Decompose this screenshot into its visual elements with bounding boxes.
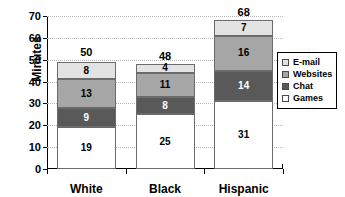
x-axis-tick xyxy=(126,169,127,174)
bar-segment-value: 25 xyxy=(159,137,170,147)
y-axis-tick-label: 10 xyxy=(29,141,41,153)
bar-segment[interactable]: 7 xyxy=(214,20,273,35)
y-axis-tick-label: 20 xyxy=(29,119,41,131)
bar-segment-value: 4 xyxy=(162,63,168,73)
bar-segment-value: 16 xyxy=(238,48,249,58)
bar-segment-value: 31 xyxy=(238,130,249,140)
bar-total-label: 48 xyxy=(159,50,171,62)
x-axis-category-label: Hispanic xyxy=(219,182,269,196)
bar-total-label: 68 xyxy=(238,6,250,18)
bar-segment-value: 14 xyxy=(238,81,249,91)
y-axis-tick xyxy=(43,60,47,61)
y-axis-tick xyxy=(43,103,47,104)
x-axis-tick xyxy=(47,169,48,174)
y-axis-tick-label: 70 xyxy=(29,10,41,22)
bar-segment[interactable]: 31 xyxy=(214,101,273,169)
legend-swatch-icon xyxy=(282,59,289,66)
bar-segment[interactable]: 4 xyxy=(136,64,195,73)
x-axis-tick xyxy=(204,169,205,174)
y-axis-tick-label: 60 xyxy=(29,32,41,44)
bar-segment[interactable]: 16 xyxy=(214,36,273,71)
legend-swatch-icon xyxy=(282,83,289,90)
stacked-bar-chart: Minutes 010203040506070White19913850Blac… xyxy=(0,0,345,197)
x-axis-tick xyxy=(283,169,284,174)
bar-segment[interactable]: 13 xyxy=(57,79,116,107)
y-axis-tick xyxy=(43,82,47,83)
y-axis-tick-label: 30 xyxy=(29,97,41,109)
legend-swatch-icon xyxy=(282,71,289,78)
bar-segment[interactable]: 19 xyxy=(57,127,116,169)
y-axis-tick-label: 0 xyxy=(35,163,41,175)
plot-area: 010203040506070White19913850Black2581144… xyxy=(47,16,283,169)
legend-label: Websites xyxy=(293,70,332,79)
legend-label: E-mail xyxy=(293,58,320,67)
legend-item[interactable]: E-mail xyxy=(282,57,332,68)
x-axis-category-label: White xyxy=(70,182,103,196)
legend-swatch-icon xyxy=(282,95,289,102)
y-axis-tick-label: 40 xyxy=(29,76,41,88)
bar-segment-value: 9 xyxy=(84,113,90,123)
x-axis-category-label: Black xyxy=(149,182,181,196)
bar-segment[interactable]: 8 xyxy=(136,97,195,114)
bar-segment[interactable]: 25 xyxy=(136,114,195,169)
y-axis-tick xyxy=(43,38,47,39)
chart-legend: E-mailWebsitesChatGames xyxy=(277,52,337,109)
y-axis-tick-label: 50 xyxy=(29,54,41,66)
bar-segment-value: 7 xyxy=(241,23,247,33)
y-axis-tick xyxy=(43,125,47,126)
legend-label: Games xyxy=(293,94,323,103)
legend-label: Chat xyxy=(293,82,313,91)
bar-segment[interactable]: 11 xyxy=(136,73,195,97)
bar-segment-value: 19 xyxy=(81,143,92,153)
bar-total-label: 50 xyxy=(80,46,92,58)
legend-item[interactable]: Chat xyxy=(282,81,332,92)
y-axis-tick xyxy=(43,147,47,148)
bar-stack[interactable]: 311416768 xyxy=(214,20,273,169)
bar-stack[interactable]: 19913850 xyxy=(57,60,116,169)
bar-segment-value: 8 xyxy=(84,66,90,76)
y-axis-line xyxy=(47,16,48,169)
bar-segment-value: 11 xyxy=(160,80,171,90)
legend-item[interactable]: Games xyxy=(282,93,332,104)
bar-segment[interactable]: 8 xyxy=(57,62,116,79)
bar-segment[interactable]: 14 xyxy=(214,71,273,102)
y-axis-tick xyxy=(43,16,47,17)
legend-item[interactable]: Websites xyxy=(282,69,332,80)
bar-segment[interactable]: 9 xyxy=(57,108,116,128)
bar-segment-value: 8 xyxy=(162,101,168,111)
bar-stack[interactable]: 25811448 xyxy=(136,64,195,169)
bar-segment-value: 13 xyxy=(81,89,92,99)
